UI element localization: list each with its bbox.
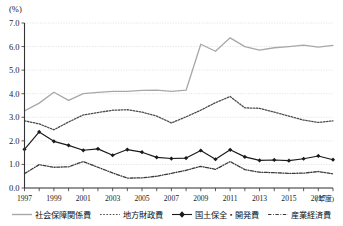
data-point-marker [96, 147, 100, 151]
data-point-marker [331, 158, 335, 162]
legend-label-3: 産業経済費 [291, 208, 331, 220]
data-point-marker [257, 158, 261, 162]
series-3 [25, 162, 334, 179]
data-point-marker [184, 156, 188, 160]
x-tick-2011: 2011 [223, 194, 238, 203]
series-2 [22, 130, 335, 163]
legend-key-dashdot [268, 210, 288, 219]
data-point-marker [169, 156, 173, 160]
series-0 [25, 38, 334, 111]
y-tick-1.0: 1.0 [9, 159, 20, 169]
data-point-marker [316, 154, 320, 158]
line-chart-plot: 0.01.02.03.04.05.06.07.0 199719992001200… [0, 0, 343, 226]
x-tick-2001: 2001 [76, 194, 91, 203]
y-axis-tick-labels: 0.01.02.03.04.05.06.07.0 [9, 18, 20, 193]
data-point-marker [272, 158, 276, 162]
legend-item-3[interactable]: 産業経済費 [268, 208, 331, 220]
y-tick-5.0: 5.0 [9, 65, 20, 75]
data-point-marker [81, 148, 85, 152]
chart-legend: 社会保障関係費 地方財政費 国土保全・開発費 産業経済費 [0, 205, 343, 223]
legend-item-1[interactable]: 地方財政費 [100, 208, 163, 220]
legend-key-dotted [100, 210, 120, 219]
data-point-marker [125, 147, 129, 151]
x-tick-2009: 2009 [193, 194, 208, 203]
data-point-marker [155, 155, 159, 159]
y-tick-0.0: 0.0 [9, 183, 20, 193]
legend-label-1: 地方財政費 [123, 208, 163, 220]
data-point-marker [66, 143, 70, 147]
legend-label-2: 国土保全・開発費 [195, 208, 259, 220]
y-tick-6.0: 6.0 [9, 42, 20, 52]
x-axis-tick-labels: 1997199920012003200520072009201120132015… [17, 194, 326, 203]
data-point-marker [140, 150, 144, 154]
data-series-layer [22, 38, 335, 178]
x-tick-2005: 2005 [134, 194, 149, 203]
data-point-marker [243, 155, 247, 159]
legend-item-2[interactable]: 国土保全・開発費 [172, 208, 259, 220]
x-tick-2015: 2015 [281, 194, 296, 203]
y-tick-3.0: 3.0 [9, 112, 20, 122]
x-axis-unit-label: (年度) [315, 194, 334, 203]
legend-key-solid-diamond [172, 210, 192, 219]
legend-item-0[interactable]: 社会保障関係費 [12, 208, 91, 220]
x-tick-1999: 1999 [46, 194, 61, 203]
data-point-marker [111, 153, 115, 157]
gridlines-group [22, 23, 334, 188]
chart-container: (%) 0.01.02.03.04.05.06.07.0 19971999200… [0, 0, 343, 226]
legend-label-0: 社会保障関係費 [35, 208, 91, 220]
data-point-marker [287, 159, 291, 163]
y-tick-2.0: 2.0 [9, 136, 20, 146]
y-tick-4.0: 4.0 [9, 89, 20, 99]
y-tick-7.0: 7.0 [9, 18, 20, 28]
x-tick-2003: 2003 [105, 194, 120, 203]
x-tick-2013: 2013 [252, 194, 267, 203]
legend-key-solid-gray [12, 210, 32, 219]
series-1 [25, 97, 334, 130]
data-point-marker [302, 157, 306, 161]
x-tick-1997: 1997 [17, 194, 32, 203]
x-tick-2007: 2007 [164, 194, 179, 203]
